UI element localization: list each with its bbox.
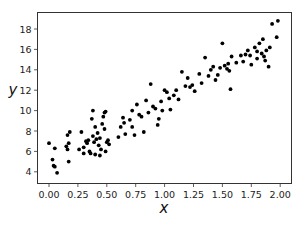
data-point bbox=[275, 35, 279, 39]
data-point bbox=[262, 55, 266, 59]
data-point bbox=[103, 127, 107, 131]
data-point bbox=[193, 89, 197, 93]
data-point bbox=[276, 19, 280, 23]
data-point bbox=[97, 143, 101, 147]
data-point bbox=[104, 110, 108, 114]
data-point bbox=[230, 55, 234, 59]
data-point bbox=[154, 107, 158, 111]
data-point bbox=[144, 99, 148, 103]
data-point bbox=[248, 54, 252, 58]
data-point bbox=[246, 49, 250, 53]
data-point bbox=[93, 153, 97, 157]
data-point bbox=[53, 146, 57, 150]
data-point bbox=[160, 109, 164, 113]
y-tick-label: 16 bbox=[19, 44, 31, 55]
data-point bbox=[147, 111, 151, 115]
data-point bbox=[128, 118, 132, 122]
data-point bbox=[244, 53, 248, 57]
data-point bbox=[268, 46, 272, 50]
data-point bbox=[207, 74, 211, 78]
data-point bbox=[67, 160, 71, 164]
data-point bbox=[197, 72, 201, 76]
x-axis-ticks: 0.000.250.500.751.001.251.501.752.00 bbox=[38, 184, 290, 200]
data-point bbox=[223, 64, 227, 68]
data-point bbox=[218, 66, 222, 70]
x-tick-label: 0.75 bbox=[125, 189, 146, 200]
x-tick-label: 1.00 bbox=[154, 189, 175, 200]
data-point bbox=[68, 130, 72, 134]
x-tick-label: 0.00 bbox=[38, 189, 59, 200]
data-point bbox=[64, 144, 68, 148]
data-point bbox=[169, 108, 173, 112]
data-point bbox=[53, 165, 57, 169]
data-point bbox=[99, 148, 103, 152]
data-point bbox=[186, 76, 190, 80]
data-point bbox=[249, 63, 253, 67]
data-point bbox=[267, 65, 271, 69]
data-point bbox=[172, 93, 176, 97]
data-point bbox=[91, 109, 95, 113]
data-point bbox=[234, 61, 238, 65]
data-point bbox=[253, 46, 257, 50]
data-point bbox=[130, 125, 134, 129]
data-point bbox=[121, 116, 125, 120]
data-point bbox=[130, 109, 134, 113]
data-point bbox=[258, 41, 262, 45]
plot-area bbox=[38, 13, 292, 184]
data-point bbox=[123, 132, 127, 136]
y-tick-label: 10 bbox=[19, 105, 31, 116]
data-point bbox=[117, 135, 121, 139]
data-point bbox=[260, 52, 264, 56]
data-point bbox=[270, 22, 274, 26]
data-point bbox=[104, 150, 108, 154]
data-point bbox=[82, 152, 86, 156]
data-point bbox=[156, 123, 160, 127]
data-point bbox=[159, 100, 163, 104]
data-point bbox=[216, 73, 220, 77]
x-tick-label: 1.25 bbox=[183, 189, 204, 200]
data-point bbox=[203, 56, 207, 60]
data-point bbox=[90, 117, 94, 121]
data-point bbox=[119, 125, 123, 129]
data-point bbox=[255, 50, 259, 54]
data-point bbox=[98, 154, 102, 158]
data-point bbox=[180, 70, 184, 74]
data-point bbox=[229, 87, 233, 91]
data-point bbox=[177, 98, 181, 102]
data-point bbox=[239, 54, 243, 58]
y-axis-ticks: 4681012141618 bbox=[19, 24, 37, 178]
data-point bbox=[149, 82, 153, 86]
data-point bbox=[95, 137, 99, 141]
y-tick-label: 14 bbox=[19, 64, 31, 75]
x-tick-label: 1.75 bbox=[241, 189, 262, 200]
y-tick-label: 18 bbox=[19, 24, 31, 35]
x-tick-label: 2.00 bbox=[270, 189, 291, 200]
data-point bbox=[241, 60, 245, 64]
data-point bbox=[55, 171, 59, 175]
data-point bbox=[51, 158, 55, 162]
data-point bbox=[209, 68, 213, 72]
data-point bbox=[66, 133, 70, 137]
x-tick-label: 1.50 bbox=[212, 189, 233, 200]
scatter-chart: 0.000.250.500.751.001.251.501.752.00 468… bbox=[0, 0, 307, 231]
data-point bbox=[140, 115, 144, 119]
data-point bbox=[86, 138, 90, 142]
data-point bbox=[214, 78, 218, 82]
data-point bbox=[211, 65, 215, 69]
data-point bbox=[107, 142, 111, 146]
data-point bbox=[98, 136, 102, 140]
y-tick-label: 4 bbox=[25, 166, 31, 177]
data-point bbox=[184, 84, 188, 88]
x-tick-label: 0.50 bbox=[96, 189, 117, 200]
data-point bbox=[100, 122, 104, 126]
data-point bbox=[47, 141, 51, 145]
data-point bbox=[157, 117, 161, 121]
data-point bbox=[92, 140, 96, 144]
data-point bbox=[101, 115, 105, 119]
data-point bbox=[167, 97, 171, 101]
data-point bbox=[190, 83, 194, 87]
data-point bbox=[200, 81, 204, 85]
data-point bbox=[221, 41, 225, 45]
y-tick-label: 6 bbox=[25, 146, 31, 157]
y-axis-label: y bbox=[8, 81, 19, 99]
